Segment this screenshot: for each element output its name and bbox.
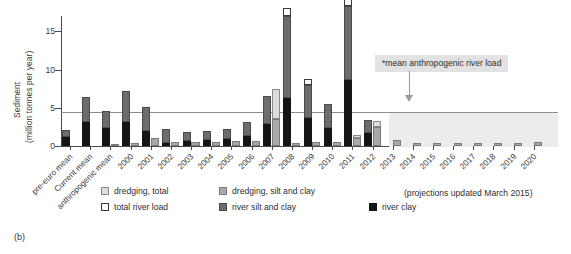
x-axis-tick xyxy=(231,146,232,150)
x-axis-tick-label: 2006 xyxy=(237,152,256,171)
x-axis-tick-label: 2009 xyxy=(297,152,316,171)
x-axis-tick-label: 2020 xyxy=(519,152,538,171)
bar-dredging-2003 xyxy=(191,16,199,146)
x-axis-tick-label: 2019 xyxy=(499,152,518,171)
bar-segment-river-silt-and-clay xyxy=(324,104,332,128)
x-axis-tick-label: 2002 xyxy=(156,152,175,171)
x-axis-tick xyxy=(493,146,494,150)
bar-segment-river-clay xyxy=(304,118,312,146)
bar-segment-river-clay xyxy=(324,128,332,146)
bar-dredging-2020 xyxy=(534,16,542,146)
bar-river-pre-euro-mean xyxy=(62,16,70,146)
bar-segment-dredging-total xyxy=(272,89,280,120)
legend-item-dredge-silt: dredging, silt and clay xyxy=(219,186,315,196)
y-axis-tick-label: 0 xyxy=(33,141,55,151)
legend-item-label: river clay xyxy=(382,202,416,212)
bar-segment-river-clay xyxy=(122,122,130,146)
x-axis-tick xyxy=(352,146,353,150)
bar-dredging-2019 xyxy=(514,16,522,146)
y-axis-tick xyxy=(55,146,61,147)
x-axis-tick xyxy=(312,146,313,150)
bar-segment-river-silt-and-clay xyxy=(344,6,352,80)
bar-river-2009 xyxy=(304,16,312,146)
x-axis-tick xyxy=(90,146,91,150)
legend-swatch-icon xyxy=(101,203,109,211)
bar-dredging-2011 xyxy=(353,16,361,146)
bar-segment-river-silt-and-clay xyxy=(122,91,130,122)
bar-river-2002 xyxy=(162,16,170,146)
bar-dredging-2012 xyxy=(373,16,381,146)
x-axis-tick xyxy=(393,146,394,150)
bar-segment-river-silt-and-clay xyxy=(243,122,251,136)
legend-swatch-icon xyxy=(219,187,227,195)
bar-river-Current-mean xyxy=(82,16,90,146)
panel-label: (b) xyxy=(14,232,25,242)
x-axis-tick-label: 2016 xyxy=(438,152,457,171)
bar-river-2007 xyxy=(263,16,271,146)
legend-item-river-clay: river clay xyxy=(369,202,416,212)
bar-segment-dredging-total xyxy=(353,135,361,138)
bar-segment-river-clay xyxy=(183,141,191,146)
projection-updated-note: (projections updated March 2015) xyxy=(404,188,533,198)
bar-segment-river-clay xyxy=(364,133,372,146)
x-axis-tick xyxy=(110,146,111,150)
bar-segment-river-silt-and-clay xyxy=(142,107,150,131)
bar-segment-dredging-silt-and-clay xyxy=(413,143,421,146)
bar-segment-river-silt-and-clay xyxy=(162,129,170,142)
x-axis-tick xyxy=(373,146,374,150)
x-axis-tick-label: 2000 xyxy=(116,152,135,171)
bar-segment-river-clay xyxy=(142,131,150,146)
bar-segment-dredging-silt-and-clay xyxy=(474,143,482,146)
bar-segment-dredging-silt-and-clay xyxy=(494,143,502,146)
annotation-leader-line xyxy=(409,71,410,97)
bar-segment-dredging-silt-and-clay xyxy=(292,143,300,146)
bar-segment-river-silt-and-clay xyxy=(283,16,291,98)
x-axis-tick-label: 2003 xyxy=(176,152,195,171)
x-axis-tick xyxy=(453,146,454,150)
bar-river-2000 xyxy=(122,16,130,146)
bar-dredging-2010 xyxy=(333,16,341,146)
legend-item-label: total river load xyxy=(114,202,168,212)
bar-dredging-2016 xyxy=(454,16,462,146)
bar-dredging-2000 xyxy=(131,16,139,146)
bar-river-2005 xyxy=(223,16,231,146)
bar-segment-river-clay xyxy=(263,124,271,146)
bar-dredging-2013 xyxy=(393,16,401,146)
bar-segment-dredging-silt-and-clay xyxy=(151,138,159,146)
y-axis-tick xyxy=(55,70,61,71)
bar-segment-dredging-silt-and-clay xyxy=(373,127,381,146)
chart-figure: Sediment (million tonnes per year) 05101… xyxy=(0,0,571,254)
x-axis-tick-label: 2001 xyxy=(136,152,155,171)
x-axis-tick xyxy=(473,146,474,150)
x-axis-tick xyxy=(534,146,535,150)
bar-segment-dredging-silt-and-clay xyxy=(131,143,139,146)
x-axis-tick-label: 2010 xyxy=(317,152,336,171)
x-axis-tick-label: 2011 xyxy=(338,152,357,171)
bar-segment-river-silt-and-clay xyxy=(263,96,271,124)
x-axis-tick xyxy=(514,146,515,150)
bar-dredging-anthropogenic-mean xyxy=(111,16,119,146)
annotation-mean-anthropogenic-river-load: *mean anthropogenic river load xyxy=(375,55,508,72)
bar-segment-dredging-silt-and-clay xyxy=(534,142,542,146)
x-axis-tick-label: 2015 xyxy=(418,152,437,171)
plot-area xyxy=(61,16,557,146)
x-axis-tick-label: 2008 xyxy=(277,152,296,171)
legend-item-label: dredging, total xyxy=(114,186,168,196)
bar-river-2003 xyxy=(183,16,191,146)
y-axis-tick-label: 5 xyxy=(33,103,55,113)
bar-segment-river-silt-and-clay xyxy=(223,129,231,139)
bar-dredging-2015 xyxy=(433,16,441,146)
bar-dredging-2002 xyxy=(171,16,179,146)
x-axis-tick-label: 2012 xyxy=(358,152,377,171)
bar-segment-dredging-silt-and-clay xyxy=(454,143,462,146)
x-axis-tick xyxy=(252,146,253,150)
x-axis-tick xyxy=(332,146,333,150)
bar-river-2004 xyxy=(203,16,211,146)
legend-swatch-icon xyxy=(101,187,109,195)
bar-dredging-2014 xyxy=(413,16,421,146)
bar-river-2010 xyxy=(324,16,332,146)
bar-segment-river-clay xyxy=(344,80,352,146)
x-axis-tick xyxy=(211,146,212,150)
bar-dredging-2001 xyxy=(151,16,159,146)
x-axis-tick xyxy=(151,146,152,150)
